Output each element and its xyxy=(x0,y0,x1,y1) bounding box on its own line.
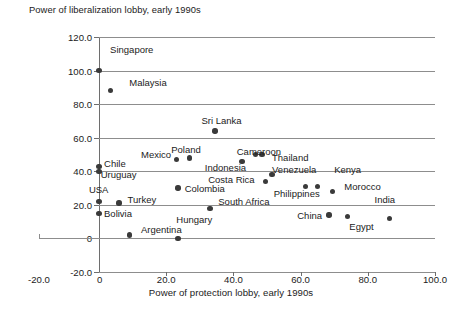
data-point-label: USA xyxy=(89,185,109,195)
data-point-label: Venezuela xyxy=(272,165,316,175)
x-axis-title: Power of protection lobby, early 1990s xyxy=(0,287,462,298)
data-point-label: Morocco xyxy=(344,182,380,192)
x-tick-label: 40.0 xyxy=(224,274,243,285)
data-point-label: Uruguay xyxy=(101,170,137,180)
data-point xyxy=(212,128,217,133)
y-tick-label: 100.0 xyxy=(68,65,92,76)
data-point-label: Chile xyxy=(104,159,126,169)
data-point-label: Indonesia xyxy=(205,163,246,173)
y-tick xyxy=(94,138,99,139)
y-tick-label: 40.0 xyxy=(73,166,92,177)
data-point xyxy=(96,68,101,73)
data-point xyxy=(108,88,113,93)
data-point-label: Kenya xyxy=(334,165,361,175)
data-point xyxy=(116,200,121,205)
y-tick-label: -20.0 xyxy=(70,267,92,278)
data-point-label: Argentina xyxy=(141,225,182,235)
data-point xyxy=(207,206,212,211)
x-tick-label: 20.0 xyxy=(157,274,176,285)
data-point xyxy=(387,216,392,221)
scatter-chart-figure: Power of liberalization lobby, early 199… xyxy=(0,0,462,309)
y-gridline xyxy=(99,37,435,38)
data-point-label: Mexico xyxy=(141,150,171,160)
y-tick xyxy=(94,104,99,105)
data-point xyxy=(96,211,101,216)
data-point xyxy=(345,214,350,219)
data-point xyxy=(187,155,192,160)
y-gridline xyxy=(99,71,435,72)
data-point xyxy=(174,157,179,162)
data-point xyxy=(96,199,101,204)
data-point-label: India xyxy=(375,195,396,205)
y-tick xyxy=(94,272,99,273)
data-point-label: Egypt xyxy=(349,222,373,232)
x-tick-label: 100.0 xyxy=(423,274,447,285)
y-tick-label: 20.0 xyxy=(73,199,92,210)
data-point-label: Bolivia xyxy=(104,209,132,219)
y-gridline xyxy=(99,238,435,239)
y-gridline xyxy=(99,171,435,172)
data-point-label: Colombia xyxy=(185,184,225,194)
plot-area: -20.0020.040.060.080.0100.0120.0-20.0020… xyxy=(99,37,435,272)
data-point xyxy=(127,232,132,237)
x-axis-left-stub-cap xyxy=(39,234,40,238)
data-point xyxy=(326,212,331,217)
data-point-label: Malaysia xyxy=(129,78,167,88)
y-gridline xyxy=(99,138,435,139)
x-tick-label: 60.0 xyxy=(291,274,310,285)
data-point-label: South Africa xyxy=(218,197,269,207)
data-point xyxy=(330,189,335,194)
data-point-label: Sri Lanka xyxy=(201,116,241,126)
x-tick-label: 80.0 xyxy=(358,274,377,285)
data-point-label: Poland xyxy=(171,145,201,155)
data-point-label: Singapore xyxy=(110,45,153,55)
x-axis-left-stub xyxy=(39,238,99,239)
data-point xyxy=(175,185,180,190)
data-point-label: China xyxy=(297,211,322,221)
data-point xyxy=(263,179,268,184)
data-point xyxy=(175,236,180,241)
y-tick-label: 120.0 xyxy=(68,32,92,43)
y-tick xyxy=(94,37,99,38)
y-tick xyxy=(94,205,99,206)
data-point-label: Philippines xyxy=(274,189,320,199)
y-tick-label: 80.0 xyxy=(73,99,92,110)
y-gridline xyxy=(99,272,435,273)
x-tick-label: -20.0 xyxy=(28,274,50,285)
data-point-label: Turkey xyxy=(128,195,157,205)
y-tick-label: 60.0 xyxy=(73,132,92,143)
y-axis-title: Power of liberalization lobby, early 199… xyxy=(29,4,201,15)
x-tick-label: 0 xyxy=(97,274,102,285)
y-gridline xyxy=(99,104,435,105)
data-point-label: Thailand xyxy=(272,153,308,163)
